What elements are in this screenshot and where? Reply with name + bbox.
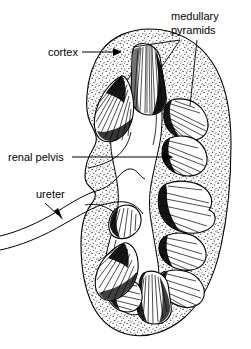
cortex-label: cortex (48, 46, 78, 58)
kidney-diagram-figure: medullary pyramids cortex renal pelvis u… (0, 0, 251, 349)
ureter-leader-line (45, 203, 58, 215)
renal-pelvis-label: renal pelvis (8, 151, 64, 163)
ureter-label: ureter (36, 188, 65, 200)
medullary-pyramids-label-line2: pyramids (171, 24, 216, 36)
kidney-body (70, 20, 245, 349)
kidney-diagram-svg: medullary pyramids cortex renal pelvis u… (0, 0, 251, 349)
medullary-pyramids-label-line1: medullary (171, 10, 219, 22)
ureter-arrowhead (54, 208, 63, 220)
